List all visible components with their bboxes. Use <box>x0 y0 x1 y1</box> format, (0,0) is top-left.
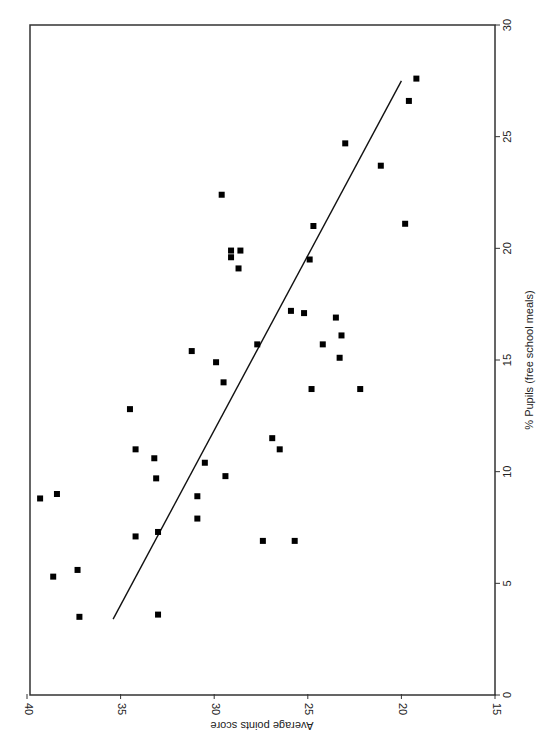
data-point <box>260 538 266 544</box>
data-point <box>153 475 159 481</box>
data-point <box>219 192 225 198</box>
x-tick-label: 40 <box>23 703 35 715</box>
data-point <box>155 612 161 618</box>
data-point <box>76 614 82 620</box>
data-point <box>254 341 260 347</box>
data-point <box>301 310 307 316</box>
data-point <box>236 265 242 271</box>
plot-frame <box>30 25 495 695</box>
data-point <box>75 567 81 573</box>
data-point <box>54 491 60 497</box>
data-point <box>133 533 139 539</box>
y-tick-label: 10 <box>501 466 513 478</box>
data-point <box>155 529 161 535</box>
data-point <box>127 406 133 412</box>
data-point <box>338 332 344 338</box>
data-point <box>202 460 208 466</box>
data-point <box>402 221 408 227</box>
data-point <box>337 355 343 361</box>
data-point <box>221 379 227 385</box>
data-point <box>194 516 200 522</box>
data-point <box>333 315 339 321</box>
data-point <box>406 98 412 104</box>
scatter-chart: 403530252015 051015202530 Average points… <box>0 0 545 748</box>
data-point <box>151 455 157 461</box>
x-axis-title: Average points score <box>210 720 313 732</box>
y-axis-title: % Pupils (free school meals) <box>523 290 535 429</box>
y-tick-label: 30 <box>501 19 513 31</box>
data-point <box>413 76 419 82</box>
x-axis-ticks: 403530252015 <box>23 694 503 715</box>
y-tick-label: 15 <box>501 354 513 366</box>
data-point <box>288 308 294 314</box>
data-point <box>310 223 316 229</box>
data-point <box>277 446 283 452</box>
x-tick-label: 35 <box>116 703 128 715</box>
y-axis-ticks: 051015202530 <box>495 19 513 698</box>
data-points <box>37 76 419 620</box>
y-tick-label: 20 <box>501 242 513 254</box>
data-point <box>292 538 298 544</box>
data-point <box>133 446 139 452</box>
data-point <box>213 359 219 365</box>
trend-line <box>113 81 401 619</box>
data-point <box>378 163 384 169</box>
data-point <box>37 495 43 501</box>
x-tick-label: 15 <box>491 703 503 715</box>
data-point <box>320 341 326 347</box>
y-tick-label: 5 <box>501 580 513 586</box>
data-point <box>237 248 243 254</box>
data-point <box>342 140 348 146</box>
y-tick-label: 25 <box>501 131 513 143</box>
data-point <box>269 435 275 441</box>
y-tick-label: 0 <box>501 692 513 698</box>
data-point <box>228 254 234 260</box>
x-tick-label: 20 <box>397 703 409 715</box>
data-point <box>309 386 315 392</box>
data-point <box>222 473 228 479</box>
data-point <box>357 386 363 392</box>
data-point <box>228 248 234 254</box>
data-point <box>307 257 313 263</box>
data-point <box>189 348 195 354</box>
x-tick-label: 30 <box>210 703 222 715</box>
data-point <box>194 493 200 499</box>
data-point <box>50 574 56 580</box>
x-tick-label: 25 <box>303 703 315 715</box>
